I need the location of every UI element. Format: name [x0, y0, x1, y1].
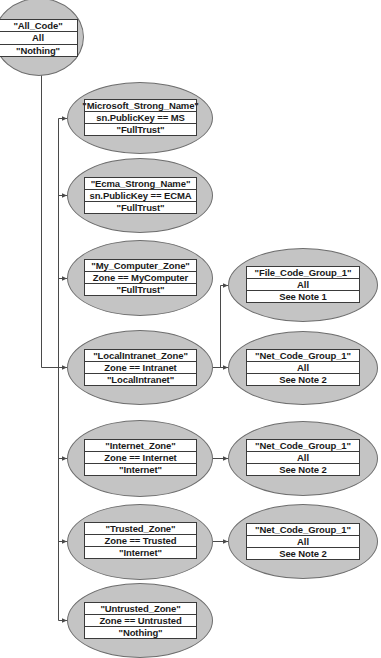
node-condition: All [247, 361, 359, 373]
node-name: "LocalIntranet_Zone" [85, 350, 196, 361]
node-condition: All [247, 278, 359, 290]
node-local-intranet-zone: "LocalIntranet_Zone" Zone == Intranet "L… [67, 330, 213, 405]
node-permission: "Nothing" [0, 44, 77, 56]
node-table: "Ecma_Strong_Name" sn.PublicKey == ECMA … [84, 177, 197, 214]
node-name: "Untrusted_Zone" [85, 603, 196, 614]
node-condition: All [247, 451, 359, 463]
node-condition: Zone == Untrusted [85, 614, 196, 626]
node-all-code: "All_Code" All "Nothing" [0, 0, 84, 76]
node-name: "All_Code" [0, 20, 77, 31]
node-permission: "Internet" [85, 546, 196, 558]
node-table: "Net_Code_Group_1" All See Note 2 [246, 439, 360, 476]
node-condition: All [0, 31, 77, 43]
node-file-code-group-intranet: "File_Code_Group_1" All See Note 1 [228, 248, 378, 322]
node-condition: All [247, 535, 359, 547]
node-name: "Net_Code_Group_1" [247, 524, 359, 535]
node-name: "Net_Code_Group_1" [247, 350, 359, 361]
node-permission: See Note 2 [247, 547, 359, 559]
node-permission: See Note 1 [247, 290, 359, 302]
node-name: "File_Code_Group_1" [247, 267, 359, 278]
node-condition: Zone == Trusted [85, 534, 196, 546]
node-permission: "FullTrust" [85, 201, 196, 213]
node-permission: "FullTrust" [85, 123, 196, 135]
node-table: "File_Code_Group_1" All See Note 1 [246, 266, 360, 303]
node-net-code-group-intranet: "Net_Code_Group_1" All See Note 2 [228, 331, 378, 405]
node-permission: See Note 2 [247, 373, 359, 385]
node-name: "Internet_Zone" [85, 440, 196, 451]
node-name: "Trusted_Zone" [85, 523, 196, 534]
node-my-computer-zone: "My_Computer_Zone" Zone == MyComputer "F… [67, 240, 213, 316]
node-table: "Net_Code_Group_1" All See Note 2 [246, 349, 360, 386]
node-condition: Zone == MyComputer [85, 271, 196, 283]
node-table: "My_Computer_Zone" Zone == MyComputer "F… [84, 259, 197, 296]
node-name: "Microsoft_Strong_Name" [85, 100, 196, 111]
node-net-code-group-internet: "Net_Code_Group_1" All See Note 2 [228, 421, 378, 496]
node-condition: sn.PublicKey == MS [85, 111, 196, 123]
node-permission: "Internet" [85, 463, 196, 475]
node-table: "All_Code" All "Nothing" [0, 19, 78, 57]
node-name: "Ecma_Strong_Name" [85, 178, 196, 189]
node-ecma-strong-name: "Ecma_Strong_Name" sn.PublicKey == ECMA … [67, 158, 213, 233]
node-condition: Zone == Intranet [85, 361, 196, 373]
node-condition: Zone == Internet [85, 451, 196, 463]
node-permission: "FullTrust" [85, 283, 196, 295]
node-table: "Trusted_Zone" Zone == Trusted "Internet… [84, 522, 197, 559]
node-internet-zone: "Internet_Zone" Zone == Internet "Intern… [67, 420, 213, 497]
node-permission: See Note 2 [247, 463, 359, 475]
node-table: "LocalIntranet_Zone" Zone == Intranet "L… [84, 349, 197, 386]
node-condition: sn.PublicKey == ECMA [85, 189, 196, 201]
node-permission: "LocalIntranet" [85, 373, 196, 385]
node-untrusted-zone: "Untrusted_Zone" Zone == Untrusted "Noth… [67, 583, 213, 658]
node-table: "Untrusted_Zone" Zone == Untrusted "Noth… [84, 602, 197, 639]
code-group-hierarchy-diagram: "All_Code" All "Nothing" "Microsoft_Stro… [0, 0, 381, 658]
node-net-code-group-trusted: "Net_Code_Group_1" All See Note 2 [228, 504, 378, 579]
node-name: "Net_Code_Group_1" [247, 440, 359, 451]
node-name: "My_Computer_Zone" [85, 260, 196, 271]
node-table: "Internet_Zone" Zone == Internet "Intern… [84, 439, 197, 476]
node-table: "Net_Code_Group_1" All See Note 2 [246, 523, 360, 560]
node-microsoft-strong-name: "Microsoft_Strong_Name" sn.PublicKey == … [67, 82, 213, 154]
node-trusted-zone: "Trusted_Zone" Zone == Trusted "Internet… [67, 504, 213, 580]
node-permission: "Nothing" [85, 626, 196, 638]
node-table: "Microsoft_Strong_Name" sn.PublicKey == … [84, 99, 197, 136]
